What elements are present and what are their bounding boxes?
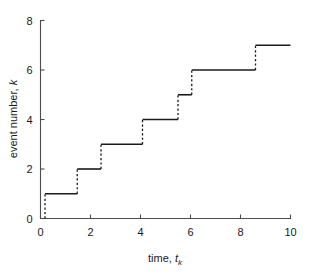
chart-figure: 0246810 02468 time, tk event number, k [0,0,313,274]
x-tick-label-4: 8 [237,226,243,238]
x-tick-label-3: 6 [187,226,193,238]
x-tick-label-2: 4 [137,226,143,238]
x-tick-label-5: 10 [284,226,296,238]
y-tick-label-1: 2 [26,163,32,175]
y-tick-label-0: 0 [26,213,32,225]
step-chart: 0246810 02468 time, tk event number, k [0,0,313,274]
y-tick-label-2: 4 [26,114,32,126]
x-axis-title: time, tk [148,252,183,267]
y-axis-title: event number, k [7,79,19,158]
x-tick-label-1: 2 [87,226,93,238]
y-tick-label-3: 6 [26,64,32,76]
step-series [45,45,291,218]
x-tick-label-0: 0 [37,226,43,238]
y-tick-labels: 02468 [26,15,32,225]
x-tick-labels: 0246810 [37,226,296,238]
y-tick-label-4: 8 [26,15,32,27]
